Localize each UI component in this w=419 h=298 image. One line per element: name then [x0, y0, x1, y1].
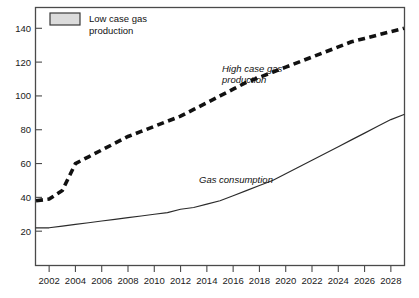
x-tick-label: 2022	[301, 275, 322, 286]
x-tick-label: 2014	[196, 275, 217, 286]
x-tick-label: 2024	[328, 275, 349, 286]
x-tick-label: 2004	[65, 275, 86, 286]
gas-outlook-chart: 20406080100120140 2002200420062008201020…	[0, 0, 419, 298]
legend-label-line1: Low case gas	[89, 13, 147, 24]
y-tick-label: 20	[20, 226, 31, 237]
annotation-high-case-line1: High case gas	[222, 63, 282, 74]
y-tick-label: 40	[20, 192, 31, 203]
chart-background	[0, 0, 419, 298]
annotation-gas-consumption-line1: Gas consumption	[199, 174, 273, 185]
x-tick-label: 2026	[354, 275, 375, 286]
x-tick-label: 2018	[249, 275, 270, 286]
x-tick-label: 2006	[91, 275, 112, 286]
legend-swatch-low-case	[50, 13, 80, 25]
annotation-high-case-line2: production	[221, 74, 266, 85]
x-tick-label: 2008	[117, 275, 138, 286]
y-tick-label: 80	[20, 124, 31, 135]
y-tick-label: 120	[15, 57, 31, 68]
y-tick-label: 60	[20, 158, 31, 169]
x-tick-label: 2012	[170, 275, 191, 286]
chart-canvas: 20406080100120140 2002200420062008201020…	[0, 0, 419, 298]
x-tick-label: 2028	[380, 275, 401, 286]
x-tick-label: 2010	[144, 275, 165, 286]
x-tick-label: 2002	[39, 275, 60, 286]
y-tick-label: 100	[15, 90, 31, 101]
y-tick-label: 140	[15, 23, 31, 34]
x-tick-label: 2016	[223, 275, 244, 286]
legend-label-line2: production	[89, 25, 133, 36]
x-tick-label: 2020	[275, 275, 296, 286]
annotation-gas-consumption: Gas consumption	[199, 174, 273, 185]
